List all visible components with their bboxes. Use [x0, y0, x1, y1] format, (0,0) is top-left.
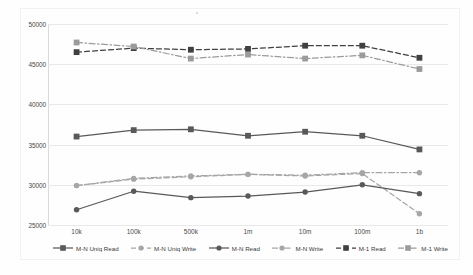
data-point-marker [359, 43, 365, 49]
legend-swatch-icon [208, 244, 230, 252]
data-point-marker [188, 56, 194, 62]
data-point-marker [74, 134, 80, 140]
data-point-marker [245, 193, 250, 198]
legend-item-m-1-read[interactable]: M-1 Read [335, 244, 386, 252]
data-point-marker [417, 211, 422, 216]
data-point-marker [302, 129, 308, 135]
data-point-marker [74, 207, 79, 212]
series-m-n-uniq-read [74, 126, 423, 152]
data-point-marker [188, 47, 194, 53]
data-point-marker [302, 56, 308, 62]
data-point-marker [302, 172, 307, 177]
series-m-1-write [74, 40, 423, 72]
data-point-marker [131, 127, 137, 133]
data-point-marker [360, 170, 365, 175]
data-point-marker [417, 66, 423, 72]
data-point-marker [245, 172, 250, 177]
legend-swatch-icon [335, 244, 357, 252]
legend-item-m-n-write[interactable]: M-N Write [271, 244, 323, 252]
data-point-marker [245, 52, 251, 58]
legend-item-m-n-uniq-write[interactable]: M-N Uniq Write [130, 244, 196, 252]
series-m-n-read [74, 182, 422, 212]
legend-item-m-n-read[interactable]: M-N Read [208, 244, 260, 252]
data-point-marker [74, 183, 79, 188]
data-point-marker [302, 189, 307, 194]
legend-swatch-icon [130, 244, 152, 252]
data-point-marker [245, 46, 251, 52]
data-point-marker [188, 173, 193, 178]
legend-item-m-1-write[interactable]: M-1 Write [397, 244, 448, 252]
legend-item-label: M-N Read [232, 245, 260, 252]
data-point-marker [245, 133, 251, 139]
legend-swatch-icon [52, 244, 74, 252]
data-point-marker [131, 189, 136, 194]
series-line [77, 129, 420, 149]
line-chart: 250003000035000400004500050000 10k100k50… [0, 0, 473, 275]
data-point-marker [417, 147, 423, 153]
data-point-marker [188, 126, 194, 132]
legend-item-label: M-N Uniq Write [154, 245, 196, 252]
data-point-marker [360, 182, 365, 187]
chart-legend: M-N Uniq ReadM-N Uniq WriteM-N ReadM-N W… [48, 242, 452, 254]
legend-item-m-n-uniq-read[interactable]: M-N Uniq Read [52, 244, 119, 252]
series-plot-area [0, 0, 473, 275]
data-point-marker [188, 195, 193, 200]
data-point-marker [74, 40, 80, 46]
data-point-marker [302, 43, 308, 49]
legend-item-label: M-N Write [295, 245, 323, 252]
data-point-marker [131, 176, 136, 181]
data-point-marker [74, 49, 80, 55]
data-point-marker [417, 170, 422, 175]
legend-item-label: M-1 Write [421, 245, 448, 252]
data-point-marker [131, 44, 137, 50]
data-point-marker [359, 52, 365, 58]
data-point-marker [359, 133, 365, 139]
data-point-marker [417, 55, 423, 61]
legend-item-label: M-N Uniq Read [76, 245, 119, 252]
legend-swatch-icon [397, 244, 419, 252]
legend-swatch-icon [271, 244, 293, 252]
legend-item-label: M-1 Read [359, 245, 386, 252]
data-point-marker [417, 191, 422, 196]
